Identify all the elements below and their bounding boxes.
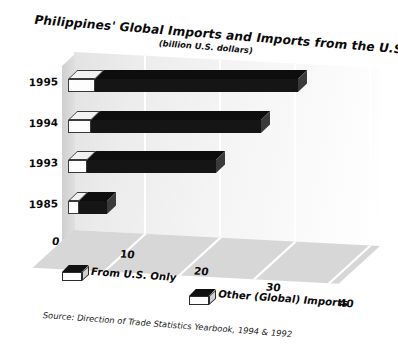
bar-top-face xyxy=(87,151,225,160)
swatch-front-face xyxy=(62,272,82,281)
bar-1985-other-global xyxy=(79,201,107,214)
y-tick-label-1993: 1993 xyxy=(18,156,58,169)
legend-swatch-from-us-only xyxy=(62,272,82,281)
bar-front-face xyxy=(91,120,261,133)
x-tick-label-10: 10 xyxy=(119,248,135,261)
bar-1993-other-global xyxy=(87,160,216,173)
floor-gridline-40 xyxy=(328,245,372,283)
swatch-front-face xyxy=(189,296,209,305)
bar-top-face xyxy=(95,70,307,79)
y-tick-label-1985: 1985 xyxy=(18,197,58,210)
bar-top-face xyxy=(91,111,270,120)
bar-front-face xyxy=(68,120,91,133)
bar-front-face xyxy=(68,79,95,92)
bar-front-face xyxy=(95,79,298,92)
y-tick-label-1994: 1994 xyxy=(18,116,58,129)
bar-1995-other-global xyxy=(95,79,298,92)
bar-front-face xyxy=(87,160,216,173)
bar-front-face xyxy=(68,201,79,214)
legend-swatch-other-global-imports xyxy=(189,296,209,305)
floor-gridline-30 xyxy=(253,242,297,280)
gridline-40 xyxy=(369,67,371,245)
y-tick-label-1995: 1995 xyxy=(18,75,58,88)
chart-container: Philippines' Global Imports and Imports … xyxy=(0,0,398,348)
bar-front-face xyxy=(68,160,87,173)
bar-1985-from-us xyxy=(68,201,79,214)
bar-1994-other-global xyxy=(91,120,261,133)
bar-1994-from-us xyxy=(68,120,91,133)
bar-1993-from-us xyxy=(68,160,87,173)
bar-front-face xyxy=(79,201,107,214)
x-tick-label-20: 20 xyxy=(193,265,209,278)
bar-1995-from-us xyxy=(68,79,95,92)
